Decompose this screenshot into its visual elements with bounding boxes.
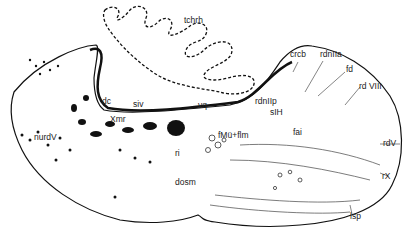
label-tchrh: tchrh [184,16,203,25]
label-Xmr: Xmr [110,115,126,124]
fiber-circles [206,135,303,190]
fiber-tracts [210,144,380,213]
label-dosm: dosm [175,178,196,187]
label-fd: fd [346,65,353,74]
label-rdnIIa: rdnIIa [320,50,342,59]
label-dc: dc [102,97,111,106]
label-rX: rX [382,172,391,181]
label-vq: vq [198,101,207,110]
label-fai: fai [293,128,302,137]
label-rdnIIp: rdnIIp [255,97,277,106]
motor-nuclei [71,95,185,137]
label-rdVIII: rd VIII [359,82,382,91]
label-rdV: rdV [383,139,396,148]
section-outline [11,45,401,226]
label-crcb: crcb [290,50,306,59]
label-lsp: lsp [350,212,361,221]
label-ri: ri [175,149,180,158]
label-nurdV: nurdV [34,133,57,142]
choroid-plexus [104,6,255,94]
label-fMu-flm: fMü+flm [218,131,248,140]
label-sIH: sIH [270,108,283,117]
brain-section-drawing [0,0,414,242]
label-siv: siv [133,100,143,109]
